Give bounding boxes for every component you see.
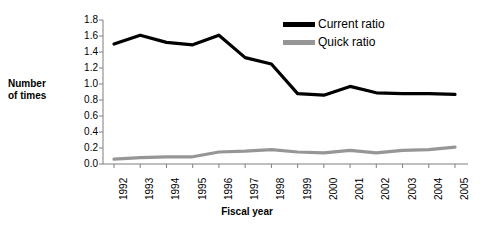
series-line-quick-ratio xyxy=(114,147,455,159)
x-axis-title: Fiscal year xyxy=(0,206,494,217)
legend-item-label: Quick ratio xyxy=(318,36,375,49)
legend-item[interactable]: Current ratio xyxy=(283,18,385,31)
chart-container: Number of times 1.81.61.41.21.00.80.60.4… xyxy=(0,0,494,230)
legend-item[interactable]: Quick ratio xyxy=(283,36,375,49)
legend-swatch-icon xyxy=(283,40,315,45)
legend-swatch-icon xyxy=(283,22,315,27)
legend-item-label: Current ratio xyxy=(318,18,385,31)
plot-area xyxy=(0,0,494,230)
